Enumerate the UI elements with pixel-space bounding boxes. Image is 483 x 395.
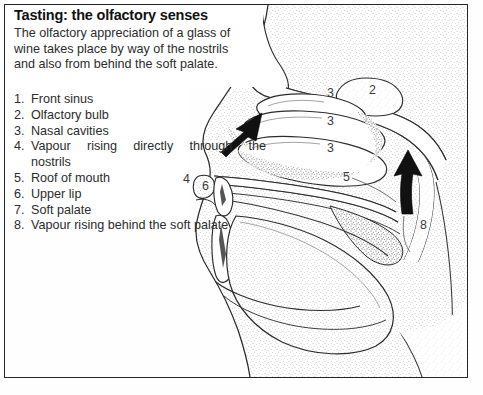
subtitle-line-2: wine takes place by way of the nostrils [14, 42, 264, 58]
legend-list: 1. Front sinus 2. Olfactory bulb 3. Nasa… [14, 92, 266, 234]
list-item: 2. Olfactory bulb [14, 108, 266, 124]
callout-2: 2 [369, 83, 376, 97]
callout-3-inferior: 3 [327, 141, 334, 155]
list-item: 1. Front sinus [14, 92, 266, 108]
callout-8: 8 [420, 218, 427, 232]
legend-number: 4. [14, 139, 31, 155]
legend-number: 1. [14, 92, 31, 108]
callout-3-middle: 3 [327, 114, 334, 128]
legend-number: 5. [14, 171, 31, 187]
subtitle-line-1: The olfactory appreciation of a glass of [14, 26, 264, 42]
list-item: 4. Vapour rising directly through the [14, 139, 266, 155]
page-subtitle: The olfactory appreciation of a glass of… [14, 26, 264, 73]
legend-number: 8. [14, 218, 31, 234]
legend-label: Olfactory bulb [31, 108, 266, 124]
legend-number: 6. [14, 187, 31, 203]
subtitle-line-3: and also from behind the soft palate. [14, 57, 264, 73]
legend-number: 2. [14, 108, 31, 124]
legend-label: Vapour rising behind the soft palate [31, 218, 266, 234]
legend-label: Nasal cavities [31, 124, 266, 140]
legend-label-continuation: nostrils [31, 155, 266, 171]
page-title: Tasting: the olfactory senses [14, 7, 264, 23]
list-item: 7. Soft palate [14, 203, 266, 219]
callout-5: 5 [343, 170, 350, 184]
callout-3-superior: 3 [327, 86, 334, 100]
legend-label: Front sinus [31, 92, 266, 108]
legend-number: 3. [14, 124, 31, 140]
list-item: 5. Roof of mouth [14, 171, 266, 187]
illustration-page: Tasting: the olfactory senses The olfact… [0, 0, 483, 395]
legend-label: Upper lip [31, 187, 266, 203]
legend-label: Roof of mouth [31, 171, 266, 187]
list-item: 8. Vapour rising behind the soft palate [14, 218, 266, 234]
list-item: 3. Nasal cavities [14, 124, 266, 140]
caption-block: Tasting: the olfactory senses The olfact… [14, 7, 264, 73]
legend-number: 7. [14, 203, 31, 219]
legend-label: Soft palate [31, 203, 266, 219]
list-item: 6. Upper lip [14, 187, 266, 203]
legend-label: Vapour rising directly through the [31, 139, 266, 155]
